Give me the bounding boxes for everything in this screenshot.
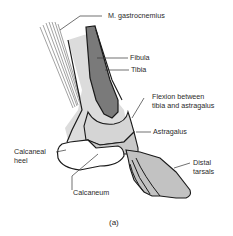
- label-tibia: Tibia: [131, 66, 146, 74]
- label-gastrocnemius: M. gastrocnemius: [108, 12, 165, 20]
- label-calcaneal-heel-line1: Calcaneal: [14, 148, 46, 156]
- label-flexion-line1: Flexion between: [152, 93, 204, 101]
- label-astragalus: Astragalus: [153, 128, 187, 136]
- distal-tarsals: [126, 150, 191, 198]
- ankle-illustration: [0, 0, 233, 236]
- label-calcaneal-heel-line2: heel: [14, 157, 28, 165]
- ankle-diagram: M. gastrocnemius Fibula Tibia Flexion be…: [0, 0, 233, 236]
- label-fibula: Fibula: [130, 54, 150, 62]
- figure-caption: (a): [109, 218, 119, 227]
- label-distal-tarsals-line1: Distal: [193, 159, 211, 167]
- label-calcaneum: Calcaneum: [73, 189, 109, 197]
- label-distal-tarsals-line2: tarsals: [193, 168, 214, 176]
- label-flexion-line2: tibia and astragalus: [152, 102, 214, 110]
